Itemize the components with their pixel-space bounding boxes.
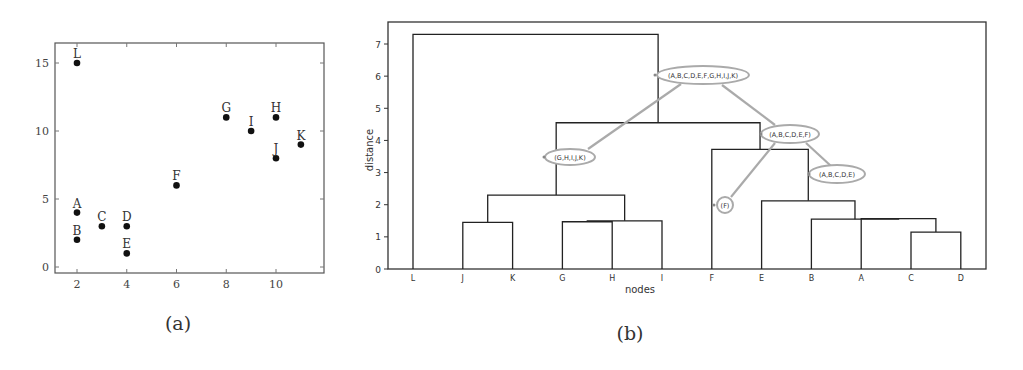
leaf-label-f: F: [709, 274, 714, 283]
leaf-label-d: D: [958, 274, 964, 283]
annotation-connector: [722, 85, 775, 125]
dendrogram-link: [811, 219, 898, 269]
point-label: J: [272, 142, 279, 156]
point-label: K: [296, 129, 306, 143]
y-tick-label: 5: [375, 104, 381, 114]
leaf-label-h: H: [609, 274, 615, 283]
dendrogram-link: [587, 221, 662, 269]
y-tick-label: 5: [42, 193, 49, 206]
y-tick-label: 1: [375, 232, 381, 242]
annotation-anchor: [760, 133, 763, 136]
x-tick-label: 4: [123, 278, 130, 291]
y-tick-label: 4: [375, 136, 381, 146]
point-label: A: [72, 197, 82, 211]
y-tick-label: 3: [375, 168, 381, 178]
plot-frame: [55, 43, 324, 273]
x-tick-label: 6: [173, 278, 180, 291]
annotation-connector: [731, 143, 775, 197]
x-tick-label: 10: [269, 278, 283, 291]
dendrogram-link: [413, 34, 658, 269]
point-label: F: [172, 169, 180, 183]
dendrogram-link: [911, 232, 961, 269]
annotation-connector: [806, 143, 831, 166]
y-tick-label: 15: [35, 57, 49, 70]
figure: 051015246810ABCDEFGHIJKL (a) 01234567dis…: [0, 0, 1023, 370]
dendrogram-link: [488, 195, 625, 222]
point-label: H: [271, 101, 281, 115]
leaf-label-k: K: [510, 274, 516, 283]
annotation-text: (A,B,C,D,E): [819, 171, 855, 179]
leaf-label-e: E: [759, 274, 764, 283]
y-tick-label: 0: [375, 265, 381, 275]
point-label: I: [249, 115, 254, 129]
leaf-label-c: C: [908, 274, 914, 283]
leaf-label-b: B: [809, 274, 815, 283]
scatter-plot-a: 051015246810ABCDEFGHIJKL: [35, 43, 324, 291]
annotation-text: (A,B,C,D,E,F,G,H,I,J,K): [668, 72, 738, 80]
y-tick-label: 7: [375, 40, 381, 50]
x-tick-label: 8: [223, 278, 230, 291]
annotation-anchor: [543, 156, 546, 159]
dendrogram-link: [861, 219, 936, 269]
y-tick-label: 0: [42, 261, 49, 274]
annotation-anchor: [713, 204, 716, 207]
annotation-connector: [588, 84, 681, 149]
annotation-anchor: [808, 173, 811, 176]
caption-b: (b): [617, 322, 644, 344]
leaf-label-a: A: [858, 274, 864, 283]
point-label: B: [73, 224, 82, 238]
point-label: G: [221, 101, 231, 115]
annotation-text: (G,H,I,J,K): [554, 154, 585, 162]
annotation-anchor: [654, 74, 657, 77]
dendrogram-link: [463, 222, 513, 269]
dendrogram-b: 01234567distanceLJKGHIFEBACDnodes(A,B,C,…: [364, 22, 986, 295]
annotation-text: (A,B,C,D,E,F): [769, 131, 811, 139]
point-label: C: [97, 210, 106, 224]
plot-frame: [388, 22, 986, 269]
y-tick-label: 10: [35, 125, 49, 138]
x-tick-label: 2: [74, 278, 81, 291]
point-label: E: [122, 237, 131, 251]
y-tick-label: 2: [375, 200, 381, 210]
y-axis-label: distance: [364, 129, 375, 171]
dendrogram-link: [562, 222, 612, 269]
caption-a: (a): [165, 312, 191, 334]
annotation-text: (F): [721, 202, 730, 210]
y-tick-label: 6: [375, 72, 381, 82]
leaf-label-g: G: [559, 274, 565, 283]
point-label: D: [122, 210, 132, 224]
leaf-label-j: J: [461, 274, 464, 283]
leaf-label-l: L: [411, 274, 416, 283]
x-axis-label: nodes: [625, 284, 655, 295]
dendrogram-link: [762, 201, 855, 269]
point-label: L: [73, 47, 81, 61]
leaf-label-i: I: [661, 274, 663, 283]
